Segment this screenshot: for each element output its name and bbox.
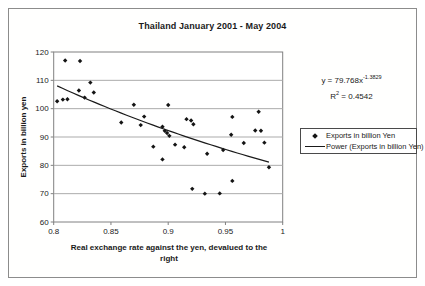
x-tick-label: 0.95	[218, 227, 234, 236]
y-tick-label: 100	[35, 104, 49, 113]
legend-item-exports: Exports in billion Yen	[304, 131, 416, 140]
chart-figure: 607080901001101200.80.850.90.951 Thailan…	[8, 8, 417, 278]
y-tick-label: 60	[40, 218, 49, 227]
chart-title: Thailand January 2001 - May 2004	[9, 21, 416, 31]
x-tick-label: 0.9	[163, 227, 175, 236]
trendline-marker-icon	[305, 146, 325, 147]
trendline-equation: y = 79.768x-1.3829 R2 = 0.4542	[294, 71, 409, 102]
legend: Exports in billion Yen Power (Exports in…	[300, 128, 417, 154]
x-axis-title: Real exchange rate against the yen, deva…	[59, 242, 279, 264]
x-tick-label: 0.85	[103, 227, 119, 236]
y-tick-label: 80	[40, 161, 49, 170]
legend-item-power: Power (Exports in billion Yen)	[304, 142, 416, 151]
legend-label-exports: Exports in billion Yen	[326, 131, 395, 140]
legend-label-power: Power (Exports in billion Yen)	[326, 142, 424, 151]
r-squared-line: R2 = 0.4542	[294, 87, 409, 103]
x-axis-title-line1: Real exchange rate against the yen, deva…	[59, 242, 279, 253]
x-axis-title-line2: right	[59, 253, 279, 264]
y-axis-title: Exports in billion yen	[19, 97, 28, 178]
y-tick-label: 70	[40, 189, 49, 198]
x-tick-label: 1	[280, 227, 285, 236]
equation-line: y = 79.768x-1.3829	[294, 71, 409, 87]
diamond-marker-icon	[312, 133, 318, 139]
y-tick-label: 90	[40, 133, 49, 142]
x-tick-label: 0.8	[48, 227, 60, 236]
y-tick-label: 120	[35, 48, 49, 57]
y-tick-label: 110	[36, 76, 49, 85]
